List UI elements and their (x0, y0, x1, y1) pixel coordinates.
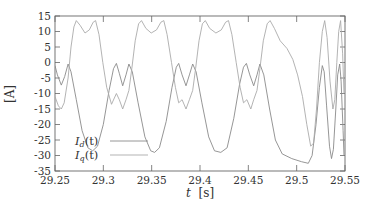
y-tick-label: -15 (34, 103, 51, 115)
x-tick-label: 29.4 (188, 174, 212, 186)
y-axis-label: [A] (3, 85, 17, 103)
y-axis: 151050-5-10-15-20-25-30-35 (34, 10, 345, 177)
y-tick-label: -10 (34, 87, 51, 99)
legend-label-id: Id(t) (74, 134, 98, 149)
y-tick-label: 10 (38, 25, 51, 37)
x-tick-label: 29.25 (40, 174, 70, 186)
legend-label-iq: Iq(t) (74, 148, 98, 163)
x-tick-label: 29.55 (330, 174, 360, 186)
series-id-line (55, 63, 344, 163)
x-axis-label-variable: t (186, 186, 191, 200)
y-tick-label: -5 (41, 72, 51, 84)
x-tick-label: 29.3 (92, 174, 115, 186)
y-tick-label: 5 (44, 41, 51, 53)
x-tick-label: 29.5 (285, 174, 308, 186)
y-tick-label: -30 (34, 149, 51, 161)
y-tick-label: 15 (38, 10, 51, 22)
legend-item-id: Id(t) (74, 134, 148, 149)
y-tick-label: 0 (44, 56, 51, 68)
x-axis-label: t [s] (186, 186, 214, 200)
legend: Id(t) Iq(t) (74, 134, 148, 163)
legend-item-iq: Iq(t) (74, 148, 148, 163)
x-tick-label: 29.45 (233, 174, 263, 186)
y-tick-label: -25 (34, 134, 51, 146)
x-tick-label: 29.35 (137, 174, 167, 186)
y-tick-label: -20 (34, 118, 51, 130)
current-chart: 151050-5-10-15-20-25-30-35 29.2529.329.3… (0, 0, 370, 215)
x-axis-label-unit: [s] (199, 186, 215, 200)
series-iq-line (55, 21, 344, 147)
